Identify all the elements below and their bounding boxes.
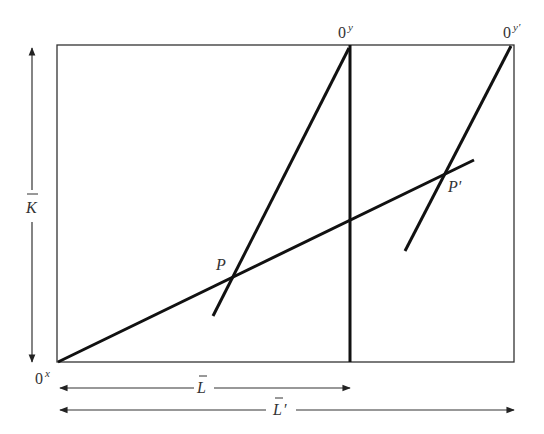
extended-box-outline <box>57 45 514 362</box>
origin-x-label: 0x <box>35 367 50 387</box>
edgeworth-box-diagram: K L L′ 0x 0y 0y′ P P′ <box>0 0 544 434</box>
point-p-prime-label: P′ <box>447 178 462 195</box>
point-p-label: P <box>215 256 226 273</box>
y-ray-original <box>213 48 349 316</box>
expansion-path-line <box>58 160 474 362</box>
l-bar-label: L <box>196 379 206 396</box>
l-bar-prime-label: L′ <box>272 401 287 418</box>
k-bar-label: K <box>25 199 38 216</box>
origin-y-prime-label: 0y′ <box>503 21 521 41</box>
y-ray-shifted <box>405 46 511 251</box>
origin-y-label: 0y <box>338 21 353 41</box>
